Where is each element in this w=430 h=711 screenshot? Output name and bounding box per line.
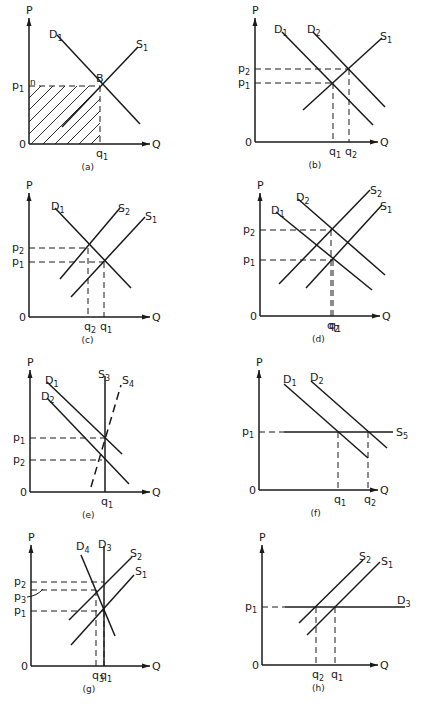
quantity-label-q2: q2 <box>312 668 324 683</box>
point-label-n: n <box>30 77 36 87</box>
panel-e: PQ0p1p2q1D1D2S3S4(e) <box>13 356 161 520</box>
supply-curve-S2 <box>60 208 120 279</box>
axis-arrow-icon <box>258 193 263 201</box>
supply-curve-S1 <box>62 47 138 127</box>
price-label-p2: p2 <box>12 241 24 256</box>
origin-label: 0 <box>19 311 26 324</box>
quantity-label-q1: q1 <box>100 669 112 684</box>
quantity-axis-label: Q <box>380 136 389 149</box>
curve-label-D3: D3 <box>397 594 411 609</box>
axis-arrow-icon <box>142 142 150 147</box>
quantity-label-q2: q2 <box>84 320 96 335</box>
curve-label-D4: D4 <box>76 540 90 555</box>
quantity-axis-label: Q <box>152 138 161 151</box>
curve-label-S1: S1 <box>145 210 157 225</box>
demand-curve-D2 <box>47 398 129 484</box>
panel-a: PQ0p1nq1D1S1B(a) <box>0 4 209 172</box>
curve-label-S1: S1 <box>380 30 392 45</box>
curve-label-S5: S5 <box>396 426 408 441</box>
origin-label: 0 <box>21 660 28 673</box>
curve-label-S1: S1 <box>135 565 147 580</box>
curve-label-D1: D1 <box>274 23 288 38</box>
quantity-label-q1: q1 <box>100 320 112 335</box>
curve-label-S1: S1 <box>381 555 393 570</box>
panel-d: PQ0p2p1q2q1D1D2S2S1(d) <box>243 179 392 344</box>
hatched-revenue-area <box>0 86 209 144</box>
axis-arrow-icon <box>142 490 150 495</box>
quantity-label-q1: q1 <box>96 147 108 162</box>
axis-arrow-icon <box>27 193 32 201</box>
supply-curve-S1 <box>307 562 380 635</box>
price-label-p1: p1 <box>242 425 254 440</box>
axis-arrow-icon <box>372 314 380 319</box>
price-axis-label: P <box>256 356 263 369</box>
quantity-axis-label: Q <box>380 484 389 497</box>
axis-arrow-icon <box>257 370 262 378</box>
origin-label: 0 <box>249 484 256 497</box>
origin-label: 0 <box>252 659 259 672</box>
price-label-p1: p1 <box>12 79 24 94</box>
price-label-p1: p1 <box>245 600 257 615</box>
equilibrium-point-label: B <box>96 72 104 85</box>
panel-caption: (f) <box>311 508 321 518</box>
price-axis-label: P <box>27 356 34 369</box>
curve-label-D2: D2 <box>307 23 321 38</box>
origin-label: 0 <box>245 136 252 149</box>
quantity-axis-label: Q <box>152 486 161 499</box>
panel-b: PQ0p2p1q1q2D1D2S1(b) <box>238 4 392 170</box>
panel-g: PQ0p2p3p1q3q1D4D3S2S1(g) <box>14 531 161 694</box>
demand-curve-D4 <box>81 555 115 636</box>
demand-curve-D2 <box>313 32 385 107</box>
price-label-p1: p1 <box>14 604 26 619</box>
curve-label-S2: S2 <box>118 202 130 217</box>
curve-label-D1: D1 <box>49 28 63 43</box>
curve-label-S2: S2 <box>359 550 371 565</box>
axis-arrow-icon <box>253 18 258 26</box>
supply-demand-figure: PQ0p1nq1D1S1B(a)PQ0p2p1q1q2D1D2S1(b)PQ0p… <box>0 0 430 711</box>
price-label-p2: p2 <box>243 223 255 238</box>
curve-label-S2: S2 <box>370 184 382 199</box>
price-axis-label: P <box>252 4 259 17</box>
axis-arrow-icon <box>29 545 34 553</box>
price-axis-label: P <box>26 4 33 17</box>
curve-label-D1: D1 <box>283 373 297 388</box>
curve-label-D2: D2 <box>41 390 55 405</box>
panel-caption: (d) <box>312 334 325 344</box>
axis-arrow-icon <box>27 18 32 26</box>
curve-label-D1: D1 <box>45 374 59 389</box>
supply-curve-S2 <box>299 560 363 623</box>
demand-curve-D1 <box>282 32 373 125</box>
price-label-p1: p1 <box>238 76 250 91</box>
origin-label: 0 <box>19 138 26 151</box>
quantity-axis-label: Q <box>152 660 161 673</box>
price-label-p2: p2 <box>238 62 250 77</box>
curve-label-D1: D1 <box>271 204 285 219</box>
axis-arrow-icon <box>28 370 33 378</box>
axis-arrow-icon <box>142 664 150 669</box>
demand-curve-D2 <box>298 199 385 275</box>
curve-label-D3: D3 <box>98 538 112 553</box>
price-label-p2: p2 <box>14 575 26 590</box>
demand-curve-D1 <box>55 208 131 288</box>
quantity-axis-label: Q <box>152 311 161 324</box>
demand-curve-D2 <box>311 381 387 448</box>
price-axis-label: P <box>257 179 264 192</box>
price-label-p1: p1 <box>243 253 255 268</box>
panel-caption: (g) <box>83 684 96 694</box>
price-label-p3: p3 <box>14 590 26 605</box>
quantity-label-q1: q1 <box>101 495 113 510</box>
quantity-label-q1: q1 <box>329 319 341 334</box>
price-axis-label: P <box>28 531 35 544</box>
panel-caption: (b) <box>309 160 322 170</box>
panel-caption: (e) <box>82 510 95 520</box>
curve-label-D2: D2 <box>310 371 324 386</box>
axis-arrow-icon <box>370 140 378 145</box>
curve-label-S2: S2 <box>130 547 142 562</box>
axis-arrow-icon <box>142 315 150 320</box>
quantity-label-q2: q2 <box>364 493 376 508</box>
curve-label-S4: S4 <box>122 374 134 389</box>
price-axis-label: P <box>259 531 266 544</box>
quantity-label-q1: q1 <box>331 668 343 683</box>
quantity-axis-label: Q <box>380 659 389 672</box>
panel-caption: (c) <box>82 335 94 345</box>
